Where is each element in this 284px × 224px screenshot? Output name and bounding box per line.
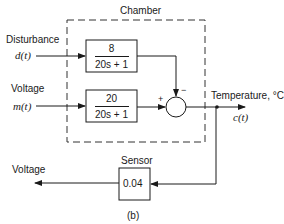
feedback-to-sensor-arrow	[151, 107, 216, 184]
plus-sign: +	[158, 94, 163, 104]
minus-sign: −	[181, 85, 186, 95]
summing-junction	[166, 97, 186, 117]
temperature-output-signal: c(t)	[233, 112, 248, 123]
temperature-output-label: Temperature, °C	[211, 91, 284, 101]
disturbance-tf-numerator: 8	[109, 43, 115, 56]
sensor-gain: 0.04	[123, 179, 142, 189]
voltage-tf-numerator: 20	[106, 93, 117, 106]
sensor-voltage-label: Voltage	[12, 165, 45, 175]
voltage-tf-denominator: 20s + 1	[95, 107, 128, 120]
voltage-input-label: Voltage	[11, 84, 44, 94]
disturbance-signal: d(t)	[15, 50, 31, 61]
disturbance-to-sum-arrow	[137, 56, 176, 96]
chamber-label: Chamber	[120, 6, 161, 16]
disturbance-tf-denominator: 20s + 1	[95, 57, 128, 70]
sensor-label: Sensor	[121, 156, 153, 166]
voltage-input-signal: m(t)	[13, 101, 31, 112]
disturbance-transfer-function: 8 20s + 1	[86, 40, 137, 72]
voltage-transfer-function: 20 20s + 1	[86, 90, 137, 122]
disturbance-label: Disturbance	[6, 35, 59, 45]
chamber-boundary	[67, 20, 205, 142]
figure-label: (b)	[127, 211, 139, 221]
